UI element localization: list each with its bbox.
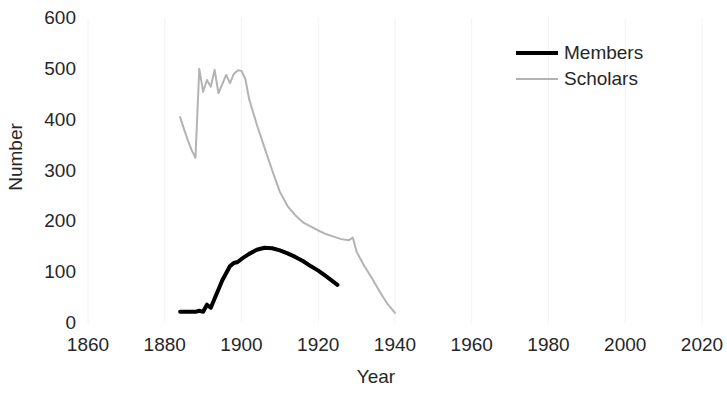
x-tick-label: 1860 bbox=[48, 334, 128, 356]
legend-item-members: Members bbox=[516, 40, 696, 66]
series-lines bbox=[180, 69, 395, 313]
series-line-scholars bbox=[180, 69, 395, 313]
x-tick-label: 2000 bbox=[585, 334, 665, 356]
legend-item-scholars: Scholars bbox=[516, 66, 696, 92]
x-tick-label: 1980 bbox=[509, 334, 589, 356]
y-axis-label: Number bbox=[5, 97, 27, 217]
chart-legend: Members Scholars bbox=[516, 40, 696, 92]
legend-swatch-members-icon bbox=[516, 51, 558, 55]
x-tick-label: 1960 bbox=[432, 334, 512, 356]
x-tick-label: 2020 bbox=[662, 334, 727, 356]
y-tick-label: 500 bbox=[18, 58, 76, 80]
series-line-members bbox=[180, 248, 337, 312]
y-tick-label: 0 bbox=[18, 312, 76, 334]
x-tick-label: 1900 bbox=[202, 334, 282, 356]
x-tick-label: 1920 bbox=[278, 334, 358, 356]
legend-label-members: Members bbox=[564, 42, 643, 64]
x-tick-label: 1880 bbox=[125, 334, 205, 356]
x-axis-label: Year bbox=[306, 366, 446, 388]
legend-label-scholars: Scholars bbox=[564, 68, 638, 90]
y-tick-label: 600 bbox=[18, 7, 76, 29]
legend-swatch-scholars-icon bbox=[516, 78, 558, 80]
y-tick-label: 100 bbox=[18, 261, 76, 283]
x-tick-label: 1940 bbox=[355, 334, 435, 356]
